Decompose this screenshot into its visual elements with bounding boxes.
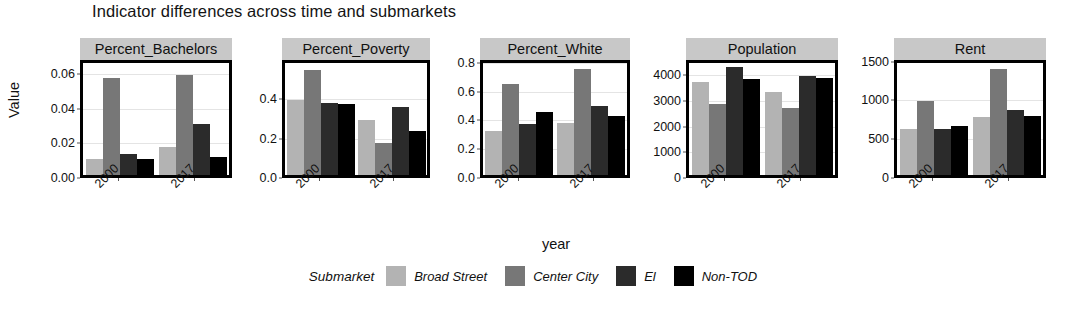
plot-panel — [80, 60, 232, 178]
bar-group-2000 — [692, 63, 760, 175]
bar-group-2017 — [557, 63, 625, 175]
bar-group-2017 — [973, 63, 1041, 175]
x-axis: 20002017 — [894, 178, 1046, 188]
bar — [536, 112, 553, 176]
y-tick-label: 0.4 — [260, 92, 277, 106]
bar — [159, 147, 176, 175]
facet-percent_bachelors: Percent_Bachelors0.000.020.040.062000201… — [34, 38, 232, 188]
bar — [574, 69, 591, 175]
x-axis: 20002017 — [80, 178, 232, 188]
legend-item[interactable]: Center City — [505, 266, 598, 286]
bar — [176, 75, 193, 175]
plot-panel — [282, 60, 430, 178]
y-tick-label: 2000 — [653, 120, 681, 134]
legend-item[interactable]: El — [616, 266, 656, 286]
x-tick-mark — [118, 178, 119, 181]
y-tick-label: 0 — [882, 171, 889, 185]
y-tick-label: 4000 — [653, 68, 681, 82]
bar-group-2000 — [287, 63, 355, 175]
y-axis: 0.00.20.4 — [242, 60, 282, 178]
bar-area — [285, 63, 427, 175]
facet-percent_white: Percent_White0.00.20.40.60.820002017 — [440, 38, 630, 188]
bar — [900, 129, 917, 175]
bar — [193, 124, 210, 175]
bar-group-2017 — [159, 63, 227, 175]
y-tick-label: 0.0 — [458, 171, 475, 185]
legend-label: Center City — [533, 269, 598, 284]
legend-label: Broad Street — [414, 269, 487, 284]
y-tick-label: 0.04 — [51, 102, 75, 116]
x-tick-mark — [724, 178, 725, 181]
x-tick-mark — [800, 178, 801, 181]
facet-strip-label: Rent — [894, 38, 1046, 60]
bar — [519, 124, 536, 175]
bar — [990, 69, 1007, 175]
bar — [287, 100, 304, 175]
bar — [1024, 116, 1041, 175]
legend-item[interactable]: Non-TOD — [674, 266, 757, 286]
legend: SubmarketBroad StreetCenter CityElNon-TO… — [0, 262, 1084, 290]
y-tick-label: 0.06 — [51, 67, 75, 81]
bar — [973, 117, 990, 175]
legend-label: Non-TOD — [702, 269, 757, 284]
x-tick-mark — [932, 178, 933, 181]
bar-area — [897, 63, 1043, 175]
bar — [799, 76, 816, 175]
x-tick-mark — [1008, 178, 1009, 181]
legend-title: Submarket — [309, 269, 374, 284]
x-axis-title: year — [542, 236, 570, 252]
facet-strip-label: Percent_White — [480, 38, 630, 60]
bar-area — [83, 63, 229, 175]
y-tick-label: 0.2 — [260, 132, 277, 146]
x-tick-mark — [393, 178, 394, 181]
y-tick-label: 0.00 — [51, 171, 75, 185]
chart-title: Indicator differences across time and su… — [92, 2, 456, 21]
x-tick-mark — [593, 178, 594, 181]
bar — [557, 123, 574, 175]
chart-root: Indicator differences across time and su… — [0, 0, 1084, 314]
bar — [120, 154, 137, 175]
legend-swatch — [386, 266, 406, 286]
x-axis: 20002017 — [282, 178, 430, 188]
bar — [765, 92, 782, 175]
y-axis: 01000200030004000 — [640, 60, 686, 178]
bar — [692, 82, 709, 175]
bar — [726, 67, 743, 175]
y-tick-label: 1000 — [653, 145, 681, 159]
plot-panel — [480, 60, 630, 178]
x-axis: 20002017 — [480, 178, 630, 188]
y-tick-label: 1000 — [861, 93, 889, 107]
facet-population: Population0100020003000400020002017 — [640, 38, 838, 188]
bar-area — [483, 63, 627, 175]
bar — [951, 126, 968, 175]
bar-group-2017 — [358, 63, 426, 175]
x-axis: 20002017 — [686, 178, 838, 188]
y-tick-label: 0.0 — [260, 171, 277, 185]
facet-strip-label: Percent_Bachelors — [80, 38, 232, 60]
plot-panel — [894, 60, 1046, 178]
bar — [591, 106, 608, 175]
bar — [816, 78, 833, 175]
bar — [1007, 110, 1024, 175]
legend-swatch — [674, 266, 694, 286]
facet-strip-label: Percent_Poverty — [282, 38, 430, 60]
x-tick-mark — [319, 178, 320, 181]
y-tick-label: 0.02 — [51, 136, 75, 150]
y-tick-label: 1500 — [861, 55, 889, 69]
bar — [358, 120, 375, 175]
facet-rent: Rent05001000150020002017 — [848, 38, 1046, 188]
x-tick-mark — [194, 178, 195, 181]
legend-item[interactable]: Broad Street — [386, 266, 487, 286]
plot-panel — [686, 60, 838, 178]
x-tick-mark — [518, 178, 519, 181]
legend-swatch — [616, 266, 636, 286]
bar — [743, 79, 760, 175]
y-axis: 0.000.020.040.06 — [34, 60, 80, 178]
bar — [321, 103, 338, 175]
y-tick-label: 0.8 — [458, 56, 475, 70]
y-tick-label: 3000 — [653, 94, 681, 108]
legend-label: El — [644, 269, 656, 284]
facet-percent_poverty: Percent_Poverty0.00.20.420002017 — [242, 38, 430, 188]
bar — [934, 129, 951, 175]
bar-group-2017 — [765, 63, 833, 175]
